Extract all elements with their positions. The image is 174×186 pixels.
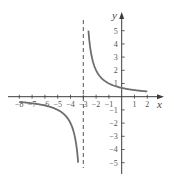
x-tick-label: 1 <box>133 100 137 109</box>
y-axis-label: y <box>111 9 117 21</box>
y-tick-label: −2 <box>109 119 118 128</box>
y-tick-label: 4 <box>114 40 118 49</box>
axes <box>8 12 164 174</box>
x-tick-label: −3 <box>79 100 88 109</box>
x-tick-label: −4 <box>66 100 75 109</box>
y-tick-label: 2 <box>114 66 118 75</box>
y-tick-label: −3 <box>109 132 118 141</box>
y-tick-label: −4 <box>109 145 118 154</box>
y-axis-arrow-icon <box>119 12 124 19</box>
y-tick-label: 5 <box>114 27 118 36</box>
x-axis-label: x <box>156 98 162 110</box>
y-tick-label: −5 <box>109 159 118 168</box>
y-tick-label: 3 <box>114 53 118 62</box>
y-tick-label: −1 <box>109 106 118 115</box>
curve-right-branch <box>88 31 147 92</box>
curve-left-branch <box>19 102 78 163</box>
x-tick-label: 2 <box>145 100 149 109</box>
function-graph: −8−7−6−5−4−3−2−112 54321−1−2−3−4−5 x y <box>0 0 174 186</box>
x-tick-label: −8 <box>15 100 24 109</box>
x-tick-label: −2 <box>92 100 101 109</box>
x-tick-label: −5 <box>53 100 62 109</box>
